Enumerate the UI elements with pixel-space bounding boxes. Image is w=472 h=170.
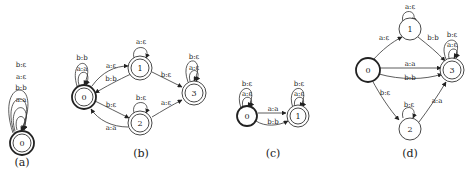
edge-label: b:b: [105, 75, 117, 83]
edge-label: a:a: [16, 96, 27, 104]
edge-label: b:ε: [106, 101, 117, 109]
state-d-0: 0: [356, 58, 380, 82]
edge-label: b:b: [404, 74, 416, 82]
edge-label: b:ε: [294, 80, 305, 88]
edge-label: a:ε: [405, 3, 416, 11]
caption-b: (b): [133, 147, 149, 160]
edge-label: b:ε: [136, 94, 147, 102]
svg-text:0: 0: [244, 112, 249, 121]
state-a-0: 0: [10, 131, 34, 155]
svg-text:1: 1: [295, 112, 300, 121]
svg-text:2: 2: [407, 125, 412, 134]
edge-label: b:b: [427, 34, 439, 42]
state-b-0: 0: [72, 85, 96, 109]
edge-label: b:ε: [380, 89, 391, 97]
edge-label: b:b: [15, 84, 27, 92]
edge-label: a:a: [268, 105, 279, 113]
edge-label: b:ε: [242, 80, 253, 88]
state-b-1: 1: [128, 56, 152, 80]
svg-text:3: 3: [191, 89, 196, 98]
edge-label: a:ε: [136, 38, 147, 46]
state-b-3: 3: [182, 81, 206, 105]
edge-label: b:ε: [447, 31, 458, 39]
edge-label: a:ε: [189, 64, 200, 72]
edge-d-0-2: [372, 80, 399, 120]
svg-text:0: 0: [81, 93, 86, 102]
loop-b-3-ae: [189, 71, 198, 82]
panel-d: a:ε a:ε b:b a:a b:b b:ε b:ε a:a a:ε b:ε …: [356, 3, 464, 160]
state-d-1: 1: [399, 18, 421, 40]
state-c-0: 0: [237, 106, 257, 126]
edge-label: b:b: [267, 118, 279, 126]
edge-label: b:b: [76, 54, 88, 62]
edge-label: a:a: [432, 97, 443, 105]
edge-label: a:ε: [379, 34, 390, 42]
svg-text:1: 1: [407, 25, 412, 34]
state-b-2: 2: [128, 111, 152, 135]
panel-a: a:a b:b a:ε b:ε 0 (a): [9, 61, 34, 169]
panel-c: a:ε b:ε a:a b:b a:ε b:ε 0 1 (c): [237, 80, 309, 160]
svg-text:2: 2: [137, 119, 142, 128]
caption-c: (c): [266, 147, 281, 160]
edge-label: a:a: [77, 65, 88, 73]
loop-d-2: [402, 108, 414, 119]
state-d-2: 2: [399, 118, 421, 140]
caption-d: (d): [402, 147, 418, 160]
edge-label: a:a: [405, 60, 416, 68]
transducer-figure: a:a b:b a:ε b:ε 0 (a) a:a b:b a:ε b:b b:…: [0, 0, 472, 170]
edge-label: a:a: [106, 124, 117, 132]
svg-text:1: 1: [137, 64, 142, 73]
caption-a: (a): [14, 156, 29, 169]
state-d-3: 3: [440, 58, 464, 82]
edge-label: b:ε: [16, 61, 27, 69]
edge-label: a:ε: [106, 62, 117, 70]
edge-label: b:ε: [189, 53, 200, 61]
edge-label: a:ε: [16, 73, 27, 81]
svg-text:0: 0: [365, 66, 370, 75]
edge-label: b:ε: [404, 101, 415, 109]
panel-b: a:a b:b a:ε b:b b:ε a:a a:ε b:ε b:ε a:ε …: [72, 38, 206, 160]
edge-label: b:ε: [161, 71, 172, 79]
svg-text:0: 0: [19, 139, 24, 148]
state-c-1: 1: [287, 105, 309, 127]
edge-label: a:ε: [161, 99, 172, 107]
edge-label: a:ε: [294, 90, 305, 98]
svg-text:3: 3: [449, 66, 454, 75]
edge-label: a:ε: [242, 90, 253, 98]
edge-label: a:ε: [447, 41, 458, 49]
